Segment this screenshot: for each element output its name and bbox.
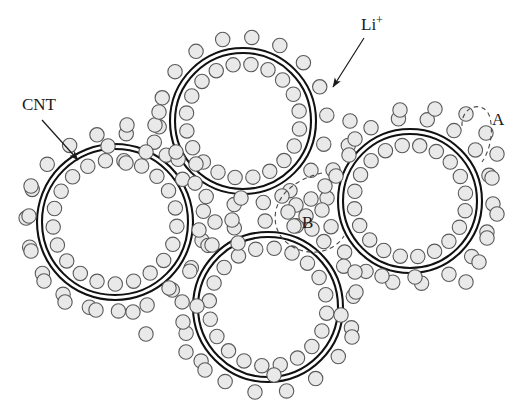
lithium-ion-inner: [195, 74, 209, 88]
lithium-ion-inner: [47, 201, 61, 215]
lithium-ion-inner: [168, 201, 182, 215]
lithium-ion-inner: [126, 274, 140, 288]
lithium-ion-free: [24, 244, 38, 258]
lithium-ion-outer: [337, 245, 351, 259]
lithium-ion-free: [329, 169, 343, 183]
lithium-ion-inner: [249, 242, 263, 256]
lithium-ion-inner: [277, 153, 291, 167]
lithium-ion-outer: [320, 108, 334, 122]
lithium-ion-free: [490, 147, 504, 161]
cnt-li-ion-diagram: CNTLi+AB: [0, 0, 522, 403]
lithium-ion-outer: [183, 264, 197, 278]
lithium-ion-inner: [134, 159, 148, 173]
lithium-ion-outer: [245, 30, 259, 44]
lithium-ion-free: [205, 238, 219, 252]
lithium-ion-outer: [317, 234, 331, 248]
lithium-ion-free: [101, 139, 115, 153]
lithium-ion-inner: [442, 234, 456, 248]
lithium-ion-inner: [458, 186, 472, 200]
lithium-ion-outer: [296, 55, 310, 69]
lithium-ion-outer: [248, 385, 262, 399]
lithium-ion-inner: [50, 238, 64, 252]
lithium-ion-inner: [185, 89, 199, 103]
lithium-ion-inner: [429, 144, 443, 158]
nanotube-wall-outer: [170, 48, 316, 194]
free-lithium-ions: [22, 102, 504, 382]
lithium-ion-inner: [300, 256, 314, 270]
lithium-ion-free: [190, 299, 204, 313]
lithium-ion-inner: [209, 63, 223, 77]
lithium-ion-outer: [331, 349, 345, 363]
lithium-ion-free: [408, 270, 422, 284]
lithium-ion-outer: [196, 204, 210, 218]
lithium-ion-inner: [73, 266, 87, 280]
lithium-ion-free: [348, 265, 362, 279]
label-li-ion-superscript: +: [376, 13, 383, 27]
lithium-ion-inner: [261, 63, 275, 77]
lithium-ion-inner: [347, 202, 361, 216]
lithium-ion-free: [208, 215, 222, 229]
lithium-ion-inner: [98, 154, 112, 168]
lithium-ion-inner: [292, 122, 306, 136]
lithium-ion-outer: [189, 44, 203, 58]
lithium-ion-inner: [207, 276, 221, 290]
lithium-ion-inner: [166, 237, 180, 251]
lithium-ion-free: [148, 118, 162, 132]
lithium-ion-free: [349, 285, 363, 299]
lithium-ion-inner: [81, 159, 95, 173]
lithium-ion-outer: [258, 214, 272, 228]
lithium-ion-inner: [180, 124, 194, 138]
lithium-ion-inner: [237, 354, 251, 368]
lithium-ion-inner: [143, 266, 157, 280]
lithium-ion-inner: [150, 169, 164, 183]
lithium-ion-outer: [140, 298, 154, 312]
lithium-ion-inner: [285, 246, 299, 260]
lithium-ion-inner: [411, 249, 425, 263]
lithium-ion-free: [275, 189, 289, 203]
lithium-ion-outer: [168, 64, 182, 78]
lithium-ion-inner: [352, 218, 366, 232]
lithium-ion-free: [393, 103, 407, 117]
lithium-ion-free: [315, 203, 329, 217]
lithium-ion-free: [24, 179, 38, 193]
lithium-ion-inner: [413, 139, 427, 153]
lithium-ion-free: [139, 145, 153, 159]
lithium-ion-inner: [364, 154, 378, 168]
leader-arrow-li-ion: [333, 38, 364, 87]
lithium-ion-inner: [228, 170, 242, 184]
lithium-ion-inner: [286, 87, 300, 101]
lithium-ion-outer: [155, 91, 169, 105]
lithium-ion-inner: [319, 306, 333, 320]
lithium-ion-free: [281, 205, 295, 219]
lithium-ion-outer: [308, 371, 322, 385]
lithium-ion-inner: [246, 170, 260, 184]
lithium-ion-free: [472, 255, 486, 269]
lithium-ion-inner: [203, 312, 217, 326]
lithium-ion-outer: [188, 176, 202, 190]
lithium-ion-inner: [287, 139, 301, 153]
lithium-ion-free: [169, 145, 183, 159]
lithium-ion-free: [343, 114, 357, 128]
lithium-ion-inner: [46, 220, 60, 234]
lithium-ion-inner: [156, 253, 170, 267]
lithium-ion-inner: [353, 168, 367, 182]
lithium-ion-inner: [378, 143, 392, 157]
lithium-ion-outer: [273, 38, 287, 52]
lithium-ion-inner: [427, 244, 441, 258]
lithium-ion-free: [179, 345, 193, 359]
lithium-ion-inner: [458, 204, 472, 218]
nanotube-cnt-bottom: [193, 232, 343, 382]
lithium-ion-free: [176, 315, 190, 329]
lithium-ion-outer: [364, 121, 378, 135]
lithium-ion-free: [162, 281, 176, 295]
lithium-ion-outer: [468, 143, 482, 157]
lithium-ion-inner: [244, 57, 258, 71]
nanotube-wall-outer: [193, 232, 343, 382]
lithium-ion-outer: [304, 163, 318, 177]
lithium-ion-free: [189, 157, 203, 171]
lithium-ion-free: [485, 171, 499, 185]
lithium-ion-inner: [179, 106, 193, 120]
lithium-ion-inner: [275, 73, 289, 87]
lithium-ion-free: [318, 179, 332, 193]
lithium-ion-inner: [452, 220, 466, 234]
